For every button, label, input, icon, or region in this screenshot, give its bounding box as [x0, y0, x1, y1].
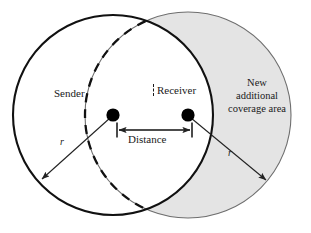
- receiver-node-dot: [181, 108, 194, 121]
- radius-left-arrow: [42, 118, 110, 179]
- distance-label: Distance: [128, 134, 166, 146]
- radius-left-label: r: [60, 137, 64, 148]
- new-coverage-area-label: New additional coverage area: [226, 77, 288, 115]
- diagram-canvas: [0, 0, 311, 233]
- sender-node-dot: [106, 108, 119, 121]
- radius-right-label: r: [228, 148, 232, 159]
- coverage-diagram: Sender Receiver Distance New additional …: [0, 0, 311, 233]
- receiver-label: Receiver: [157, 85, 196, 97]
- sender-label: Sender: [54, 88, 85, 100]
- receiver-pointer-tick: [153, 84, 154, 96]
